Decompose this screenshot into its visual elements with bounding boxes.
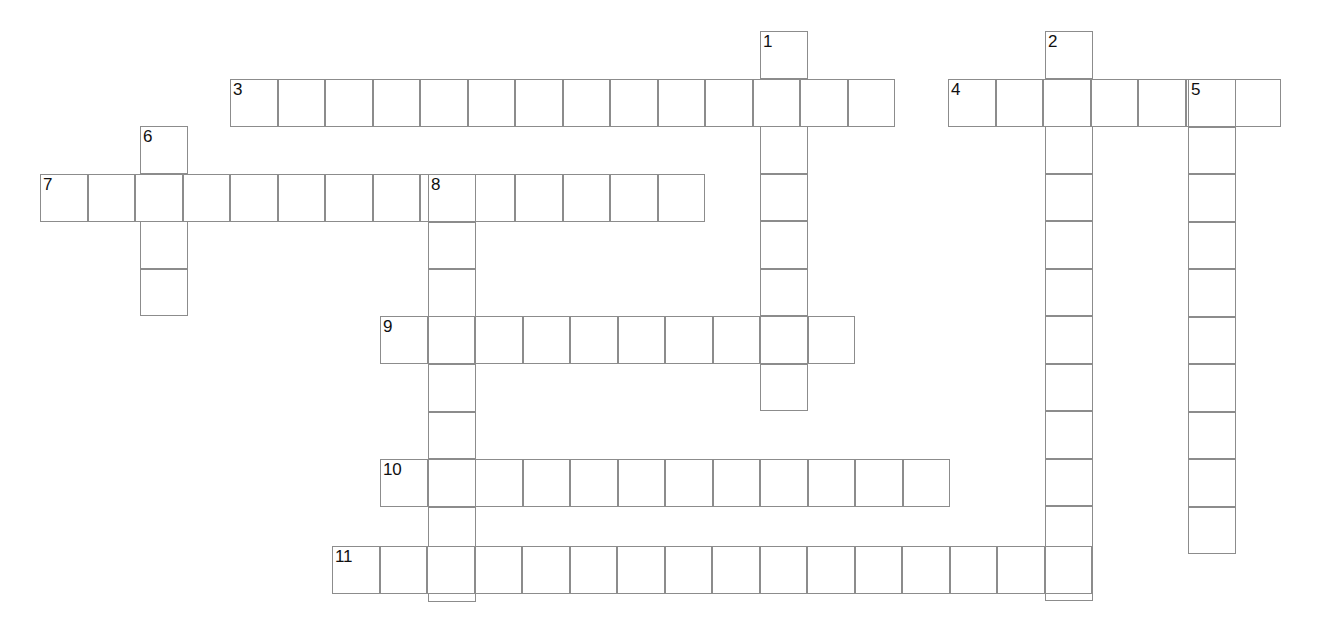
crossword-cell[interactable]: [427, 546, 475, 594]
crossword-cell[interactable]: [380, 459, 428, 507]
crossword-cell[interactable]: [950, 546, 998, 594]
crossword-cell[interactable]: [753, 79, 801, 127]
crossword-cell[interactable]: [1138, 79, 1186, 127]
crossword-cell[interactable]: [570, 459, 618, 507]
crossword-cell[interactable]: [665, 459, 713, 507]
crossword-cell[interactable]: [808, 459, 856, 507]
crossword-cell[interactable]: [1188, 317, 1236, 365]
crossword-cell[interactable]: [523, 316, 571, 364]
crossword-cell[interactable]: [760, 174, 808, 222]
crossword-cell[interactable]: [713, 459, 761, 507]
crossword-cell[interactable]: [807, 546, 855, 594]
crossword-cell[interactable]: [996, 79, 1044, 127]
crossword-cell[interactable]: [428, 364, 476, 412]
crossword-cell[interactable]: [618, 459, 666, 507]
crossword-cell[interactable]: [135, 174, 183, 222]
crossword-cell[interactable]: [760, 546, 808, 594]
crossword-cell[interactable]: [1045, 126, 1093, 174]
crossword-cell[interactable]: [658, 79, 706, 127]
crossword-cell[interactable]: [563, 174, 611, 222]
crossword-cell[interactable]: [855, 546, 903, 594]
crossword-cell[interactable]: [618, 316, 666, 364]
crossword-cell[interactable]: [475, 546, 523, 594]
crossword-cell[interactable]: [902, 546, 950, 594]
crossword-cell[interactable]: [1188, 127, 1236, 175]
crossword-cell[interactable]: [40, 174, 88, 222]
crossword-cell[interactable]: [808, 316, 856, 364]
crossword-cell[interactable]: [522, 546, 570, 594]
crossword-cell[interactable]: [712, 546, 760, 594]
crossword-cell[interactable]: [848, 79, 896, 127]
crossword-cell[interactable]: [713, 316, 761, 364]
crossword-cell[interactable]: [570, 546, 618, 594]
crossword-cell[interactable]: [428, 459, 476, 507]
crossword-cell[interactable]: [428, 412, 476, 460]
crossword-cell[interactable]: [760, 316, 808, 364]
crossword-cell[interactable]: [903, 459, 951, 507]
crossword-cell[interactable]: [475, 459, 523, 507]
crossword-cell[interactable]: [332, 546, 380, 594]
crossword-cell[interactable]: [1188, 507, 1236, 555]
crossword-cell[interactable]: [1091, 79, 1139, 127]
crossword-cell[interactable]: [760, 126, 808, 174]
crossword-cell[interactable]: [800, 79, 848, 127]
crossword-cell[interactable]: [278, 79, 326, 127]
crossword-cell[interactable]: [140, 221, 188, 269]
crossword-cell[interactable]: [428, 316, 476, 364]
crossword-cell[interactable]: [373, 174, 421, 222]
crossword-cell[interactable]: [1045, 459, 1093, 507]
crossword-cell[interactable]: [230, 79, 278, 127]
crossword-cell[interactable]: [563, 79, 611, 127]
crossword-cell[interactable]: [855, 459, 903, 507]
crossword-cell[interactable]: [1045, 546, 1093, 594]
crossword-cell[interactable]: [1233, 79, 1281, 127]
crossword-cell[interactable]: [475, 316, 523, 364]
crossword-cell[interactable]: [760, 459, 808, 507]
crossword-cell[interactable]: [1188, 459, 1236, 507]
crossword-cell[interactable]: [140, 126, 188, 174]
crossword-cell[interactable]: [760, 269, 808, 317]
crossword-cell[interactable]: [523, 459, 571, 507]
crossword-cell[interactable]: [1188, 174, 1236, 222]
crossword-cell[interactable]: [380, 546, 428, 594]
crossword-cell[interactable]: [610, 174, 658, 222]
crossword-cell[interactable]: [760, 221, 808, 269]
crossword-cell[interactable]: [1043, 79, 1091, 127]
crossword-cell[interactable]: [705, 79, 753, 127]
crossword-cell[interactable]: [665, 546, 713, 594]
crossword-cell[interactable]: [183, 174, 231, 222]
crossword-cell[interactable]: [665, 316, 713, 364]
crossword-cell[interactable]: [1045, 174, 1093, 222]
crossword-cell[interactable]: [515, 79, 563, 127]
crossword-cell[interactable]: [948, 79, 996, 127]
crossword-cell[interactable]: [373, 79, 421, 127]
crossword-cell[interactable]: [1188, 269, 1236, 317]
crossword-cell[interactable]: [1188, 364, 1236, 412]
crossword-cell[interactable]: [1188, 79, 1236, 127]
crossword-cell[interactable]: [570, 316, 618, 364]
crossword-cell[interactable]: [760, 31, 808, 79]
crossword-cell[interactable]: [420, 79, 468, 127]
crossword-cell[interactable]: [658, 174, 706, 222]
crossword-cell[interactable]: [1045, 31, 1093, 79]
crossword-cell[interactable]: [1188, 222, 1236, 270]
crossword-grid[interactable]: 1234567891011: [0, 0, 1333, 617]
crossword-cell[interactable]: [515, 174, 563, 222]
crossword-cell[interactable]: [325, 79, 373, 127]
crossword-cell[interactable]: [278, 174, 326, 222]
crossword-cell[interactable]: [1045, 221, 1093, 269]
crossword-cell[interactable]: [325, 174, 373, 222]
crossword-cell[interactable]: [760, 364, 808, 412]
crossword-cell[interactable]: [1188, 412, 1236, 460]
crossword-cell[interactable]: [88, 174, 136, 222]
crossword-cell[interactable]: [428, 222, 476, 270]
crossword-cell[interactable]: [1045, 411, 1093, 459]
crossword-cell[interactable]: [610, 79, 658, 127]
crossword-cell[interactable]: [428, 174, 476, 222]
crossword-cell[interactable]: [617, 546, 665, 594]
crossword-cell[interactable]: [997, 546, 1045, 594]
crossword-cell[interactable]: [468, 79, 516, 127]
crossword-cell[interactable]: [1045, 269, 1093, 317]
crossword-cell[interactable]: [140, 269, 188, 317]
crossword-cell[interactable]: [380, 316, 428, 364]
